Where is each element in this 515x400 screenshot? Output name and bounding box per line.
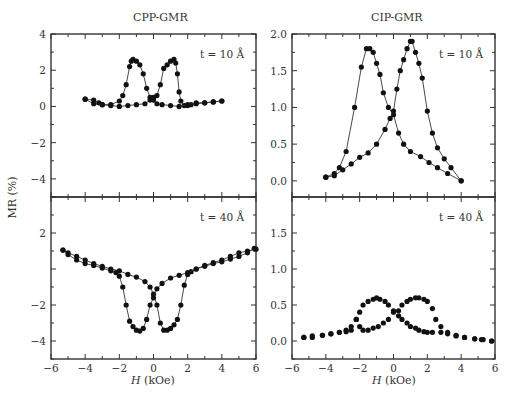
data-point — [154, 302, 159, 307]
data-point — [396, 131, 401, 136]
x-tick-label: −2 — [112, 362, 127, 374]
data-point — [117, 104, 122, 109]
data-point — [154, 101, 159, 106]
figure-canvas: −4−2024t = 10 Å−6−4−20246−4−22t = 40 Å0.… — [0, 0, 515, 400]
data-point — [175, 317, 180, 322]
data-point — [416, 328, 421, 333]
y-tick-label: 0 — [39, 100, 46, 112]
data-point — [445, 331, 450, 336]
data-point — [151, 295, 156, 300]
data-point — [137, 62, 142, 67]
data-point — [91, 98, 96, 103]
data-point — [413, 50, 418, 55]
x-tick-label: −2 — [352, 362, 367, 374]
data-point — [158, 320, 163, 325]
data-point — [124, 82, 129, 87]
data-point — [310, 333, 315, 338]
data-point — [74, 257, 79, 262]
right-x-axis-label: H (kOe) — [372, 374, 416, 387]
x-tick-label: 6 — [253, 362, 260, 374]
data-point — [438, 330, 443, 335]
x-tick-label: −6 — [43, 362, 59, 374]
data-point — [489, 338, 494, 343]
data-point — [161, 328, 166, 333]
data-point — [410, 39, 415, 44]
data-point — [404, 46, 409, 51]
data-point — [357, 155, 362, 160]
data-point — [371, 325, 376, 330]
data-point — [416, 61, 421, 66]
data-point — [386, 317, 391, 322]
data-point — [177, 273, 182, 278]
x-tick-label: 2 — [184, 362, 191, 374]
thickness-annotation: t = 10 Å — [439, 47, 483, 60]
data-point — [134, 275, 139, 280]
x-tick-label: 0 — [390, 362, 397, 374]
plot-panel-4: −6−4−202460.00.51.01.5t = 40 Å — [270, 197, 498, 374]
data-point — [219, 98, 224, 103]
y-tick-label: 2 — [39, 227, 46, 239]
data-point — [125, 103, 130, 108]
data-point — [168, 275, 173, 280]
data-point — [117, 274, 122, 279]
x-tick-label: −4 — [77, 362, 93, 374]
data-point — [354, 317, 359, 322]
data-point — [108, 102, 113, 107]
data-point — [408, 149, 413, 154]
x-axis-var: H — [131, 374, 141, 387]
data-point — [344, 328, 349, 333]
plot-panel-1: −4−2024t = 10 Å — [31, 28, 256, 197]
data-point — [211, 99, 216, 104]
data-point — [366, 150, 371, 155]
data-point — [376, 324, 381, 329]
data-point — [124, 302, 129, 307]
data-point — [366, 328, 371, 333]
y-tick-label: 2.0 — [270, 28, 287, 40]
data-point — [382, 127, 387, 132]
data-point — [357, 310, 362, 315]
data-point — [228, 257, 233, 262]
data-point — [120, 284, 125, 289]
left-column-title: CPP-GMR — [133, 11, 188, 24]
data-point — [144, 86, 149, 91]
x-axis-unit: (kOe) — [382, 374, 416, 387]
data-point — [158, 82, 163, 87]
data-point — [459, 178, 464, 183]
data-point — [462, 335, 467, 340]
data-point — [472, 336, 477, 341]
data-point — [323, 175, 328, 180]
data-point — [332, 173, 337, 178]
data-point — [421, 297, 426, 302]
data-point — [252, 246, 257, 251]
data-point — [127, 64, 132, 69]
data-point — [359, 64, 364, 69]
data-point — [202, 100, 207, 105]
data-point — [418, 154, 423, 159]
data-point — [178, 302, 183, 307]
data-point — [435, 165, 440, 170]
data-point — [144, 317, 149, 322]
data-point — [349, 161, 354, 166]
y-tick-label: −4 — [31, 173, 47, 185]
data-point — [381, 320, 386, 325]
data-point — [377, 297, 382, 302]
data-point — [430, 306, 435, 311]
data-point — [401, 57, 406, 62]
data-point — [394, 86, 399, 91]
data-point — [337, 330, 342, 335]
data-point — [91, 263, 96, 268]
data-point — [100, 266, 105, 271]
data-point — [108, 268, 113, 273]
data-point — [374, 142, 379, 147]
x-tick-label: 4 — [458, 362, 465, 374]
data-point — [435, 145, 440, 150]
left-x-axis-label: H (kOe) — [131, 374, 175, 387]
x-tick-label: −6 — [284, 362, 300, 374]
data-point — [328, 331, 333, 336]
data-point — [141, 71, 146, 76]
data-point — [349, 324, 354, 329]
data-point — [134, 102, 139, 107]
data-point — [120, 93, 125, 98]
y-tick-label: −2 — [31, 299, 46, 311]
y-tick-label: 4 — [39, 28, 46, 40]
